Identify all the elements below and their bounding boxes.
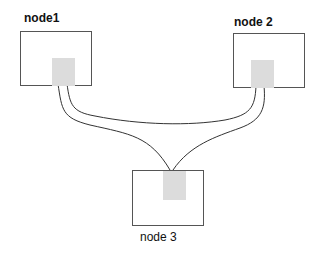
edge-node1-node3 — [58, 84, 170, 170]
diagram-canvas: node1 node 2 node 3 — [0, 0, 322, 255]
node2-label: node 2 — [234, 15, 273, 29]
node3-box[interactable] — [132, 170, 204, 226]
node2-port[interactable] — [251, 60, 274, 88]
node1-port[interactable] — [52, 58, 75, 86]
edge-node2-node3 — [173, 86, 264, 170]
node3-label: node 3 — [140, 230, 177, 244]
node3-port[interactable] — [163, 171, 186, 200]
node1-label: node1 — [24, 11, 59, 25]
node1-box[interactable] — [20, 31, 92, 86]
node2-box[interactable] — [233, 33, 305, 88]
edge-node1-node2 — [67, 84, 256, 124]
